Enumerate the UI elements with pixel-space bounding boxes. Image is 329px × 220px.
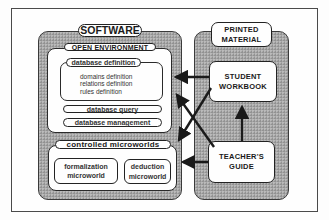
arrow-guide-to-open-environment [177,95,214,147]
arrow-workbook-to-controlled-microworlds [179,88,211,140]
arrows-layer [0,0,329,220]
